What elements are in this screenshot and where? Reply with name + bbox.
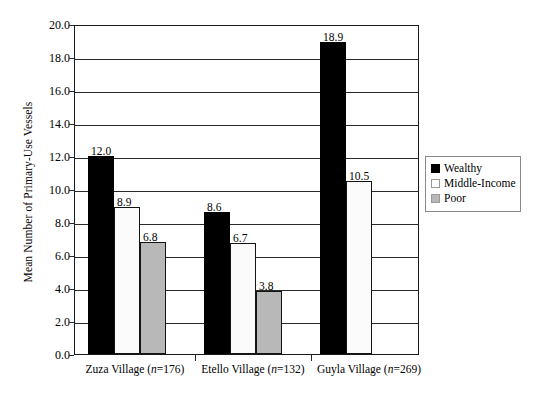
legend-item-label: Poor: [444, 193, 466, 205]
bar: [256, 291, 282, 354]
bar-chart: Mean Number of Primary-Use Vessels 0.02.…: [0, 0, 543, 399]
bar-value-label: 6.8: [143, 232, 157, 244]
legend: WealthyMiddle-IncomePoor: [425, 156, 521, 212]
legend-item: Middle-Income: [431, 176, 515, 191]
bar: [114, 207, 140, 354]
y-axis-tick-label: 18.0: [26, 51, 70, 66]
y-axis-tick-label: 10.0: [26, 183, 70, 198]
white-square-icon: [431, 179, 440, 188]
legend-item: Poor: [431, 191, 515, 206]
bar-value-label: 6.7: [233, 233, 247, 245]
y-axis-tick-label: 0.0: [26, 348, 70, 363]
bar: [320, 42, 346, 354]
y-axis-tick-mark: [69, 124, 74, 125]
legend-item-label: Middle-Income: [444, 178, 516, 190]
bar: [230, 243, 256, 354]
gray-square-icon: [431, 194, 440, 203]
bar: [204, 212, 230, 354]
black-square-icon: [431, 164, 440, 173]
x-axis-category-name: Zuza Village (: [86, 363, 152, 375]
bar: [346, 181, 372, 354]
y-axis-tick-label: 2.0: [26, 315, 70, 330]
x-axis-category-label: Guyla Village (n=269): [299, 363, 439, 375]
y-axis-tick-mark: [69, 190, 74, 191]
y-axis-tick-mark: [69, 157, 74, 158]
bar: [88, 156, 114, 354]
bar: [140, 242, 166, 354]
y-axis-tick-label: 8.0: [26, 216, 70, 231]
y-axis-tick-label: 20.0: [26, 18, 70, 33]
bar-value-label: 3.8: [259, 281, 273, 293]
bar-value-label: 8.9: [117, 197, 131, 209]
sample-size-value: =269): [393, 363, 421, 375]
y-axis-tick-mark: [69, 223, 74, 224]
y-axis-tick-mark: [69, 322, 74, 323]
x-axis-category-name: Etello Village (: [201, 363, 271, 375]
x-axis-group-separator: [311, 355, 312, 361]
sample-size-value: =176): [157, 363, 185, 375]
legend-item: Wealthy: [431, 161, 515, 176]
y-axis-tick-labels: 0.02.04.06.08.010.012.014.016.018.020.0: [22, 0, 70, 399]
y-axis-tick-mark: [69, 256, 74, 257]
y-axis-tick-label: 14.0: [26, 117, 70, 132]
y-axis-tick-label: 16.0: [26, 84, 70, 99]
bar-value-label: 10.5: [349, 171, 369, 183]
y-axis-tick-mark: [69, 289, 74, 290]
x-axis-category-name: Guyla Village (: [317, 363, 388, 375]
bar-value-label: 12.0: [91, 146, 111, 158]
legend-item-label: Wealthy: [444, 163, 482, 175]
y-axis-tick-mark: [69, 91, 74, 92]
y-axis-tick-label: 4.0: [26, 282, 70, 297]
bar-value-label: 18.9: [323, 32, 343, 44]
y-axis-tick-mark: [69, 355, 74, 356]
y-axis-tick-mark: [69, 58, 74, 59]
y-axis-tick-mark: [69, 25, 74, 26]
y-axis-tick-label: 6.0: [26, 249, 70, 264]
x-axis-group-separator: [195, 355, 196, 361]
bar-value-label: 8.6: [207, 202, 221, 214]
y-axis-tick-label: 12.0: [26, 150, 70, 165]
